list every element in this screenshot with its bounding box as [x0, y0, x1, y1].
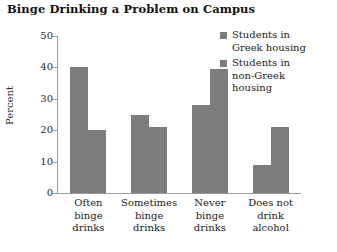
- x-axis-category-label-line: Never: [180, 197, 241, 210]
- y-tick-mark: [53, 193, 57, 194]
- y-tick-label: 30: [31, 94, 53, 104]
- chart-title: Binge Drinking a Problem on Campus: [7, 2, 255, 16]
- x-axis-category-label-line: Sometimes: [119, 197, 180, 210]
- x-axis-category-label-line: drinks: [119, 222, 180, 235]
- y-axis-title: Percent: [4, 66, 15, 146]
- bar: [88, 130, 106, 193]
- legend-label-line: Students in: [232, 57, 290, 70]
- legend-item[interactable]: Students inGreek housing: [220, 29, 336, 54]
- y-tick-mark: [53, 162, 57, 163]
- x-axis-category-label-line: binge: [119, 210, 180, 223]
- x-axis-category-label-line: alcohol: [240, 222, 301, 235]
- x-axis-category-label-line: drink: [240, 210, 301, 223]
- y-tick-mark: [53, 67, 57, 68]
- y-tick-label: 20: [31, 125, 53, 135]
- legend-label-line: Students in: [232, 29, 306, 42]
- y-tick-mark: [53, 99, 57, 100]
- x-axis-category-label-line: binge: [58, 210, 119, 223]
- legend-label-line: housing: [232, 82, 290, 95]
- x-axis-category-label: Sometimesbingedrinks: [119, 197, 180, 235]
- legend-label-line: Greek housing: [232, 42, 306, 55]
- bar-chart-figure: Binge Drinking a Problem on Campus 50403…: [0, 0, 337, 252]
- legend-label-line: non-Greek: [232, 70, 290, 83]
- y-tick-label: 10: [31, 157, 53, 167]
- legend-swatch-icon: [220, 32, 227, 39]
- legend-label: Students inGreek housing: [232, 29, 306, 54]
- x-axis-category-label: Oftenbingedrinks: [58, 197, 119, 235]
- bar: [253, 165, 271, 193]
- y-axis-tick-labels: 50403020100: [29, 36, 53, 194]
- x-axis-category-label: Neverbingedrinks: [180, 197, 241, 235]
- bar: [131, 115, 149, 194]
- x-axis-category-label-line: Does not: [240, 197, 301, 210]
- x-axis-category-label: Does notdrinkalcohol: [240, 197, 301, 235]
- x-axis-category-label-line: drinks: [58, 222, 119, 235]
- y-tick-label: 0: [31, 188, 53, 198]
- y-tick-mark: [53, 130, 57, 131]
- x-axis-category-labels: OftenbingedrinksSometimesbingedrinksNeve…: [58, 197, 301, 249]
- x-axis-category-label-line: Often: [58, 197, 119, 210]
- bar: [70, 67, 88, 193]
- bar: [192, 105, 210, 193]
- legend-label: Students innon-Greekhousing: [232, 57, 290, 95]
- y-tick-label: 40: [31, 62, 53, 72]
- x-axis-line: [57, 193, 301, 194]
- x-axis-category-label-line: binge: [180, 210, 241, 223]
- bar: [149, 127, 167, 193]
- y-tick-label: 50: [31, 31, 53, 41]
- legend-item[interactable]: Students innon-Greekhousing: [220, 57, 336, 95]
- legend-swatch-icon: [220, 60, 227, 67]
- y-tick-mark: [53, 36, 57, 37]
- x-axis-category-label-line: drinks: [180, 222, 241, 235]
- bar: [271, 127, 289, 193]
- chart-legend: Students inGreek housingStudents innon-G…: [220, 29, 336, 98]
